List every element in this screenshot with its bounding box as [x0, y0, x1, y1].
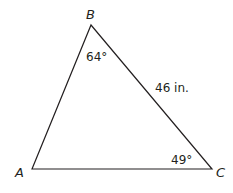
angle-label-b: 64°	[86, 50, 107, 64]
vertex-label-a: A	[14, 165, 24, 180]
vertex-label-b: B	[86, 7, 95, 22]
triangle-abc	[32, 25, 212, 169]
vertex-label-c: C	[216, 165, 226, 180]
side-label-bc: 46 in.	[155, 81, 189, 95]
triangle-diagram: B A C 64° 46 in. 49°	[0, 0, 233, 193]
angle-label-c: 49°	[171, 153, 192, 167]
